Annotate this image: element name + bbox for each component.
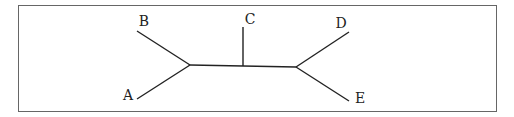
phylogenetic-tree-diagram: B A C D E bbox=[0, 0, 514, 117]
diagram-border bbox=[19, 6, 497, 112]
label-e: E bbox=[355, 90, 365, 106]
label-b: B bbox=[139, 13, 149, 29]
label-a: A bbox=[122, 87, 134, 103]
label-c: C bbox=[245, 11, 256, 27]
label-d: D bbox=[335, 15, 346, 31]
